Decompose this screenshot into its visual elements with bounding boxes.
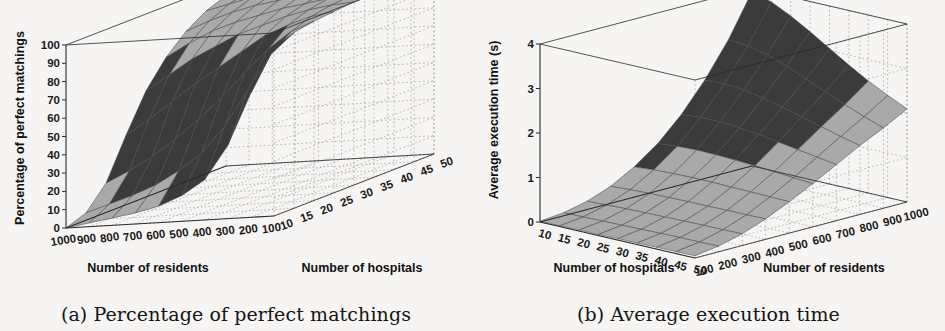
x-tick-label: 200 [238,222,259,237]
x-tick-label: 400 [192,225,213,240]
x-axis-title: Number of hospitals [554,261,675,275]
x-axis-title: Number of residents [87,261,209,275]
y-tick-label: 45 [419,162,436,178]
x-tick-label: 30 [615,245,631,260]
y-tick-label: 600 [811,231,832,247]
x-tick-label: 500 [169,226,190,241]
y-tick-label: 800 [858,219,879,235]
z-axis-title: Average execution time (s) [487,41,501,200]
y-tick-label: 700 [835,225,856,241]
y-tick-label: 40 [399,170,415,186]
x-tick-label: 600 [145,227,166,242]
surface-plot-b: 0123410152025303540455010020030040050060… [472,0,945,331]
x-tick-label: 300 [215,223,236,238]
y-tick-label: 10 [279,216,295,232]
y-tick-label: 1000 [902,205,930,222]
y-tick-label: 200 [717,256,738,272]
z-tick-label: 30 [47,167,60,179]
y-tick-label: 300 [741,250,762,266]
x-tick-label: 900 [76,231,97,246]
y-tick-label: 900 [882,212,903,228]
panel-a-caption: (a) Percentage of perfect matchings [0,303,472,325]
x-tick-label: 1000 [50,232,77,248]
z-tick-label: 3 [528,83,534,95]
z-tick-label: 10 [47,204,60,216]
z-tick-label: 20 [47,185,60,197]
z-tick-label: 50 [47,131,60,143]
z-tick-label: 90 [47,57,60,69]
z-tick-label: 2 [528,127,534,139]
z-tick-label: 40 [47,149,60,161]
y-tick-label: 500 [788,237,809,253]
x-tick-label: 25 [595,240,611,255]
x-tick-label: 800 [99,230,120,245]
z-tick-label: 1 [528,172,535,184]
y-tick-label: 20 [319,201,335,217]
y-tick-label: 30 [359,185,375,201]
panel-b: 0123410152025303540455010020030040050060… [472,0,945,331]
y-tick-label: 25 [339,193,356,209]
y-tick-label: 35 [379,177,396,193]
x-tick-label: 45 [673,258,689,273]
z-tick-label: 100 [41,39,60,51]
z-tick-label: 70 [47,94,60,106]
panel-b-caption: (b) Average execution time [472,303,945,325]
panel-a: 0102030405060708090100100090080070060050… [0,0,472,331]
z-tick-label: 0 [54,222,60,234]
y-axis-title: Number of residents [763,261,885,275]
z-tick-label: 4 [528,38,535,50]
z-tick-label: 60 [47,112,60,124]
y-tick-label: 50 [439,154,455,170]
y-tick-label: 15 [299,208,316,224]
x-tick-label: 10 [537,227,553,242]
y-tick-label: 400 [764,243,785,259]
z-tick-label: 0 [528,216,534,228]
z-tick-label: 80 [47,76,60,88]
x-tick-label: 20 [576,236,592,251]
z-axis-title: Percentage of perfect matchings [13,31,27,225]
x-tick-label: 700 [122,229,143,244]
y-axis-title: Number of hospitals [302,261,423,275]
x-tick-label: 15 [557,231,573,246]
surface-plot-a: 0102030405060708090100100090080070060050… [0,0,472,331]
figure-container: 0102030405060708090100100090080070060050… [0,0,945,331]
